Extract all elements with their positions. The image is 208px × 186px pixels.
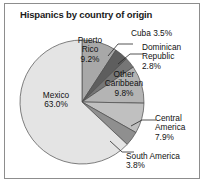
slice-label-cuba: Cuba 3.5% [131, 29, 172, 38]
slice-label-central-america: Central America 7.9% [155, 114, 185, 142]
slice-label-mexico: Mexico 63.0% [31, 91, 81, 110]
slice-label-puerto-rico-value: 9.2% [70, 55, 110, 64]
slice-label-south-america-value: 3.8% [126, 161, 180, 170]
slice-label-dominican-republic: Dominican Republic 2.8% [142, 43, 181, 71]
slice-label-puerto-rico: Puerto Rico 9.2% [70, 36, 110, 64]
slice-label-cuba-text: Cuba 3.5% [131, 29, 172, 38]
slice-label-mexico-value: 63.0% [31, 100, 81, 109]
slice-label-other-caribbean: Other Caribbean 9.8% [96, 70, 152, 98]
slice-label-other-caribbean-value: 9.8% [96, 89, 152, 98]
slice-label-central-america-value: 7.9% [155, 133, 185, 142]
slice-label-south-america: South America 3.8% [126, 152, 180, 171]
